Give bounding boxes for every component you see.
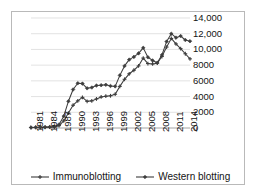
- x-tick-label: 2014: [189, 111, 199, 132]
- y-tick-label: 14,000: [193, 13, 222, 23]
- legend-label: Western blotting: [158, 172, 230, 182]
- plus-marker-icon: [30, 172, 50, 182]
- y-tick-label: 8000: [193, 60, 214, 70]
- x-tick-label: 1981: [35, 111, 45, 132]
- data-point-marker: [143, 175, 147, 179]
- data-point-marker: [29, 126, 33, 130]
- y-tick-label: 10,000: [193, 44, 222, 54]
- x-tick-label: 1996: [105, 111, 115, 132]
- x-tick-label: 2005: [147, 111, 157, 132]
- x-tick-label: 2008: [161, 111, 171, 132]
- y-tick-label: 12,000: [193, 29, 222, 39]
- x-tick-label: 1990: [77, 111, 87, 132]
- legend-label: Immunoblotting: [53, 172, 121, 182]
- data-point-marker: [99, 83, 103, 87]
- y-tick-label: 4000: [193, 92, 214, 102]
- legend-item[interactable]: Western blotting: [135, 172, 230, 182]
- data-point-marker: [118, 74, 122, 78]
- x-tick-label: 2011: [175, 112, 185, 132]
- diamond-marker-icon: [135, 172, 155, 182]
- x-tick-label: 1993: [91, 111, 101, 132]
- legend-marker: [143, 175, 147, 179]
- x-tick-label: 1999: [119, 111, 129, 132]
- x-tick-label: 2002: [133, 111, 143, 132]
- data-point-marker: [90, 86, 94, 90]
- data-point-marker: [104, 83, 108, 87]
- data-point-marker: [67, 99, 71, 103]
- data-point-marker: [188, 39, 192, 43]
- chart-legend: ImmunoblottingWestern blotting: [30, 170, 230, 184]
- legend-marker: [38, 175, 42, 179]
- data-point-marker: [95, 84, 99, 88]
- legend-item[interactable]: Immunoblotting: [30, 172, 121, 182]
- chart-container: 0200040006000800010,00012,00014,000 1981…: [0, 0, 256, 196]
- x-tick-label: 1987: [63, 111, 73, 132]
- x-tick-label: 1984: [49, 111, 59, 132]
- data-point-marker: [109, 84, 113, 88]
- y-tick-label: 6000: [193, 76, 214, 86]
- data-point-marker: [113, 85, 117, 89]
